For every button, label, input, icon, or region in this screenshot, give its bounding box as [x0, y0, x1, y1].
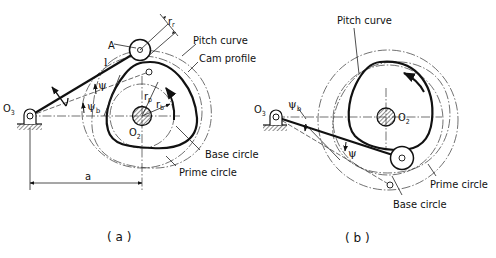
point-a-label: A	[108, 39, 115, 52]
cam-follower-diagram: Pitch curve Cam profile Base circle Prim…	[0, 0, 496, 258]
prime-circle-label: Prime circle	[179, 166, 237, 179]
psi-label-b: ψ	[348, 147, 357, 160]
prime-circle-label-b: Prime circle	[430, 178, 488, 191]
cam-center-o2-label: O2	[129, 126, 141, 141]
psi-b-arrow-b-icon	[305, 124, 306, 131]
psi-b-label: ψb	[87, 100, 101, 115]
psi-b-label-b: ψb	[288, 98, 302, 113]
caption-a: ( a )	[107, 230, 131, 244]
rb-label: rb	[156, 98, 164, 112]
cam-profile-b	[349, 62, 433, 150]
cam-profile-leader	[188, 62, 198, 72]
psi-label: ψ	[98, 79, 107, 92]
psi-arrow-b-icon	[345, 142, 346, 151]
follower-arm	[30, 50, 140, 116]
cam-center-o2-label-b: O2	[398, 111, 410, 126]
roller-radius-label: rr	[168, 15, 175, 29]
roller-pin-b	[399, 155, 405, 161]
swing-arc	[66, 98, 68, 106]
caption-b: ( b )	[345, 231, 370, 245]
prime-circle-leader	[166, 156, 176, 166]
panel-b: Pitch curve Prime circle Base circle O3 …	[254, 14, 488, 245]
cam-shaft-b-icon	[377, 108, 395, 126]
center-distance-label: a	[85, 170, 91, 183]
cam-rotation-arrow-icon	[166, 88, 174, 120]
rr-extension-1	[140, 24, 168, 50]
base-circle-label-b: Base circle	[393, 198, 447, 211]
pitch-curve-leader-b	[354, 28, 359, 74]
cam-profile	[107, 62, 197, 148]
psi-b-arrow-icon	[83, 103, 84, 113]
pitch-point	[146, 69, 152, 75]
pitch-point-b	[387, 182, 393, 188]
base-circle-leader-b	[392, 176, 402, 195]
arm-length-label: l	[104, 56, 108, 69]
rp-label: rp	[144, 90, 152, 104]
cam-profile-label: Cam profile	[199, 52, 256, 65]
rr-extension-2	[146, 32, 176, 58]
base-circle-label: Base circle	[205, 148, 259, 161]
pitch-curve-label-b: Pitch curve	[337, 14, 392, 27]
pitch-curve-label: Pitch curve	[193, 34, 248, 47]
pivot-o3-label-b: O3	[254, 103, 266, 118]
pivot-o3-label: O3	[3, 102, 15, 117]
panel-a: Pitch curve Cam profile Base circle Prim…	[3, 14, 259, 244]
